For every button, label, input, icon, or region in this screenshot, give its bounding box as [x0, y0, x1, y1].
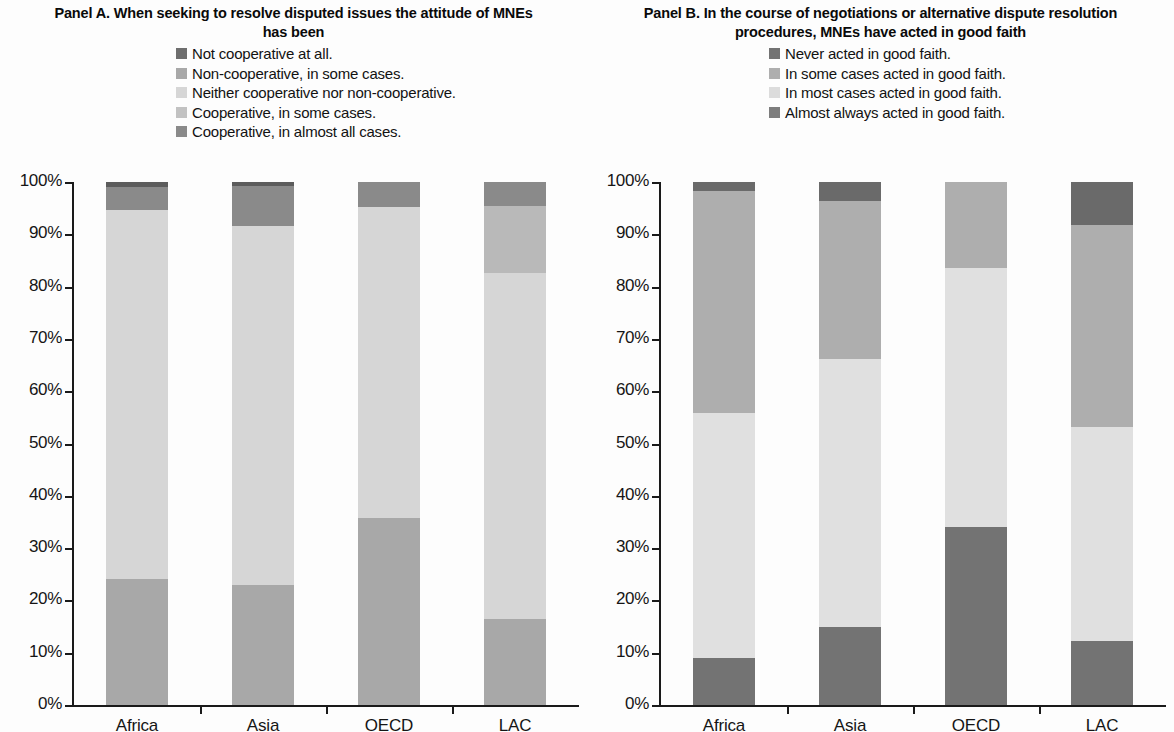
legend-item-label: In some cases acted in good faith.	[785, 64, 1006, 83]
stacked-bar	[106, 182, 168, 705]
panel-b: Panel B. In the course of negotiations o…	[587, 0, 1174, 732]
bar-segment	[484, 182, 546, 206]
x-axis-category-label: Asia	[203, 716, 323, 732]
stacked-bar	[1071, 182, 1133, 705]
y-axis-tick	[652, 600, 660, 602]
y-axis-tick-label: 20%	[0, 589, 62, 609]
x-axis-category-label: Africa	[664, 716, 784, 732]
y-axis-tick	[65, 600, 73, 602]
y-axis-tick	[652, 444, 660, 446]
bar-segment	[232, 182, 294, 186]
bar-segment	[232, 186, 294, 227]
panel-a-title: Panel A. When seeking to resolve dispute…	[0, 0, 587, 41]
bar-segment	[106, 182, 168, 187]
panel-b-legend: Never acted in good faith.In some cases …	[587, 44, 1174, 122]
legend-item: In some cases acted in good faith.	[769, 64, 1174, 84]
y-axis-tick-label: 50%	[587, 433, 649, 453]
y-axis-tick-label: 40%	[587, 485, 649, 505]
y-axis-tick	[65, 653, 73, 655]
legend-swatch-icon	[176, 126, 187, 137]
y-axis-line	[72, 182, 74, 706]
y-axis-tick	[652, 391, 660, 393]
x-axis-tick	[200, 707, 202, 714]
bar-segment	[1071, 641, 1133, 705]
bar-segment	[106, 187, 168, 211]
legend-item: Cooperative, in almost all cases.	[176, 122, 587, 142]
legend-swatch-icon	[176, 68, 187, 79]
bar-segment	[693, 658, 755, 705]
y-axis-tick-label: 80%	[587, 276, 649, 296]
legend-item-label: Cooperative, in some cases.	[192, 103, 376, 122]
bar-segment	[693, 182, 755, 191]
bar-segment	[819, 627, 881, 705]
y-axis-tick	[652, 496, 660, 498]
x-axis-category-label: OECD	[916, 716, 1036, 732]
legend-item-label: Cooperative, in almost all cases.	[192, 122, 401, 141]
panel-a: Panel A. When seeking to resolve dispute…	[0, 0, 587, 732]
legend-item: Almost always acted in good faith.	[769, 103, 1174, 123]
x-axis-tick	[326, 707, 328, 714]
y-axis-tick	[65, 287, 73, 289]
y-axis-tick	[65, 391, 73, 393]
bar-segment	[819, 182, 881, 201]
y-axis-tick-label: 30%	[0, 537, 62, 557]
y-axis-tick-label: 80%	[0, 276, 62, 296]
bar-segment	[484, 619, 546, 705]
legend-item: Non-cooperative, in some cases.	[176, 64, 587, 84]
legend-item-label: Neither cooperative nor non-cooperative.	[192, 83, 456, 102]
y-axis-tick	[65, 548, 73, 550]
y-axis-tick	[65, 705, 73, 707]
y-axis-tick-label: 0%	[587, 694, 649, 714]
stacked-bar	[819, 182, 881, 705]
y-axis-tick-label: 0%	[0, 694, 62, 714]
y-axis-tick	[652, 339, 660, 341]
bar-segment	[945, 527, 1007, 705]
bar-segment	[945, 268, 1007, 527]
legend-item-label: Non-cooperative, in some cases.	[192, 64, 404, 83]
x-axis-line	[72, 705, 579, 707]
bar-segment	[484, 273, 546, 619]
legend-item-label: Not cooperative at all.	[192, 44, 332, 63]
legend-swatch-icon	[769, 87, 780, 98]
y-axis-tick-label: 60%	[0, 380, 62, 400]
y-axis-tick	[65, 444, 73, 446]
y-axis-line	[659, 182, 661, 706]
bar-segment	[232, 585, 294, 705]
bar-segment	[106, 579, 168, 705]
legend-swatch-icon	[769, 68, 780, 79]
legend-item: Cooperative, in some cases.	[176, 103, 587, 123]
y-axis-tick-label: 100%	[0, 171, 62, 191]
bar-segment	[358, 182, 420, 207]
y-axis-tick-label: 10%	[0, 642, 62, 662]
stacked-bar	[693, 182, 755, 705]
bar-segment	[1071, 427, 1133, 641]
y-axis-tick	[65, 496, 73, 498]
legend-swatch-icon	[769, 48, 780, 59]
y-axis-tick-label: 100%	[587, 171, 649, 191]
legend-item: Never acted in good faith.	[769, 44, 1174, 64]
legend-item: Neither cooperative nor non-cooperative.	[176, 83, 587, 103]
bar-segment	[693, 413, 755, 658]
y-axis-tick-label: 20%	[587, 589, 649, 609]
x-axis-line	[659, 705, 1166, 707]
y-axis-tick	[65, 339, 73, 341]
x-axis-tick	[787, 707, 789, 714]
y-axis-tick	[652, 287, 660, 289]
legend-item: Not cooperative at all.	[176, 44, 587, 64]
bar-segment	[819, 359, 881, 627]
bar-segment	[819, 201, 881, 359]
bar-segment	[358, 207, 420, 518]
bar-segment	[693, 191, 755, 413]
panel-a-legend: Not cooperative at all.Non-cooperative, …	[0, 44, 587, 142]
panel-b-title: Panel B. In the course of negotiations o…	[587, 0, 1174, 41]
y-axis-tick-label: 10%	[587, 642, 649, 662]
y-axis-tick	[652, 234, 660, 236]
legend-item: In most cases acted in good faith.	[769, 83, 1174, 103]
y-axis-tick-label: 90%	[587, 223, 649, 243]
bar-segment	[232, 226, 294, 585]
y-axis-tick	[652, 653, 660, 655]
x-axis-category-label: LAC	[1042, 716, 1162, 732]
x-axis-tick	[913, 707, 915, 714]
legend-item-label: In most cases acted in good faith.	[785, 83, 1002, 102]
stacked-bar	[484, 182, 546, 705]
